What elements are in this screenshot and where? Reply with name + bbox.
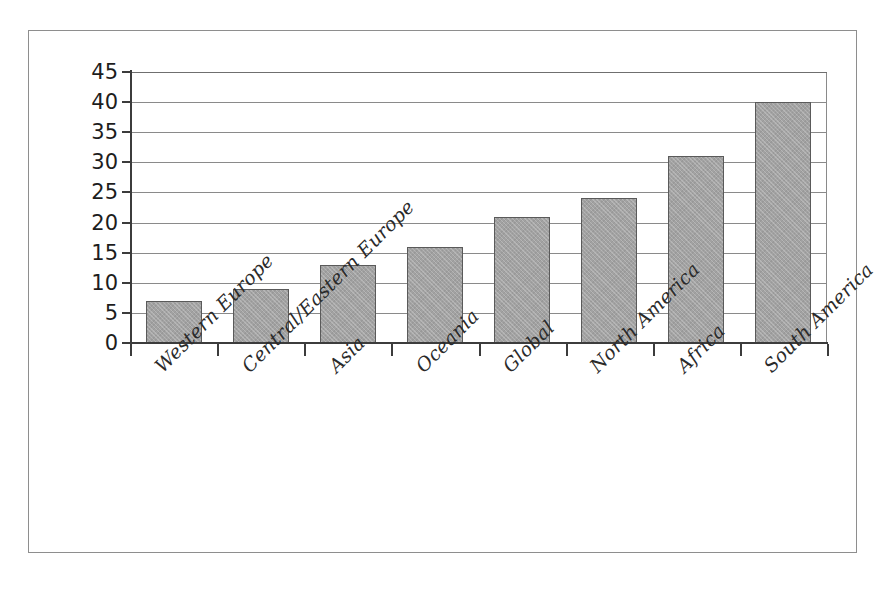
value-axis-tick-10 — [122, 282, 131, 284]
category-axis-tick — [304, 344, 306, 356]
value-axis-label-30: 30 — [72, 152, 118, 173]
value-axis-label-15: 15 — [72, 242, 118, 263]
value-axis-tick-20 — [122, 222, 131, 224]
value-axis-label-5: 5 — [72, 302, 118, 323]
value-axis-label-20: 20 — [72, 212, 118, 233]
value-axis-label-10: 10 — [72, 272, 118, 293]
category-axis-tick — [566, 344, 568, 356]
gridline-35 — [130, 132, 827, 133]
category-axis-tick — [130, 344, 132, 356]
value-axis-label-45: 45 — [72, 62, 118, 83]
value-axis-label-25: 25 — [72, 182, 118, 203]
category-axis-tick — [217, 344, 219, 356]
category-axis-tick — [740, 344, 742, 356]
value-axis-label-0: 0 — [72, 333, 118, 354]
category-axis-tick — [827, 344, 829, 356]
bar[interactable] — [668, 156, 724, 343]
value-axis-label-35: 35 — [72, 122, 118, 143]
value-axis-tick-35 — [122, 131, 131, 133]
value-axis-tick-30 — [122, 161, 131, 163]
category-axis-tick — [653, 344, 655, 356]
value-axis-tick-40 — [122, 101, 131, 103]
value-axis-tick-15 — [122, 252, 131, 254]
value-axis-tick-25 — [122, 191, 131, 193]
value-axis-line — [130, 70, 132, 345]
value-axis-tick-45 — [122, 71, 131, 73]
value-axis-label-40: 40 — [72, 92, 118, 113]
chart-figure: 454035302520151050 Western EuropeCentral… — [0, 0, 887, 589]
gridline-45 — [130, 72, 827, 73]
category-axis-tick — [479, 344, 481, 356]
category-axis-line — [122, 342, 828, 344]
value-axis-labels: 454035302520151050 — [62, 0, 118, 589]
value-axis-tick-5 — [122, 312, 131, 314]
category-axis-tick — [391, 344, 393, 356]
gridline-40 — [130, 102, 827, 103]
bar[interactable] — [755, 102, 811, 343]
